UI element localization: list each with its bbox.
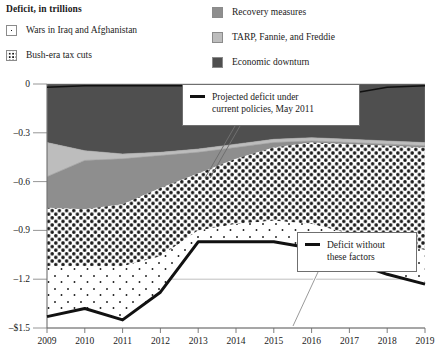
x-tick-label: 2012: [140, 336, 180, 347]
deficit-stacked-area-chart: –$1.5–1.2–0.9–0.6–0.30 20092010201120122…: [0, 0, 443, 355]
plot-canvas: [0, 0, 443, 355]
y-tick-label: –1.2: [0, 274, 30, 284]
callout-without-text: Deficit without these factors: [327, 239, 385, 263]
callout-without-line1: Deficit without: [327, 240, 385, 250]
x-tick-label: 2018: [367, 336, 407, 347]
x-tick-label: 2017: [329, 336, 369, 347]
callout-without-line2: these factors: [327, 252, 375, 262]
y-tick-label: –$1.5: [0, 323, 30, 333]
callout-projected-deficit: Projected deficit under current policies…: [182, 84, 360, 126]
x-tick-label: 2013: [178, 336, 218, 347]
x-tick-label: 2016: [292, 336, 332, 347]
callout-deficit-without-factors: Deficit without these factors: [297, 232, 417, 272]
thick-line-swatch-icon: [190, 95, 205, 98]
y-tick-label: –0.6: [0, 177, 30, 187]
thin-line-swatch-icon: [305, 243, 320, 246]
y-tick-label: –0.3: [0, 128, 30, 138]
x-tick-label: 2011: [103, 336, 143, 347]
x-tick-label: 2009: [27, 336, 67, 347]
y-tick-label: 0: [0, 79, 30, 89]
callout-projected-line1: Projected deficit under: [212, 92, 299, 102]
callout-projected-line2: current policies, May 2011: [212, 104, 314, 114]
x-tick-label: 2019: [405, 336, 443, 347]
y-tick-label: –0.9: [0, 225, 30, 235]
callout-projected-text: Projected deficit under current policies…: [212, 91, 314, 115]
x-tick-label: 2014: [216, 336, 256, 347]
leader-line-without: [293, 272, 318, 326]
x-tick-label: 2010: [65, 336, 105, 347]
x-tick-label: 2015: [254, 336, 294, 347]
